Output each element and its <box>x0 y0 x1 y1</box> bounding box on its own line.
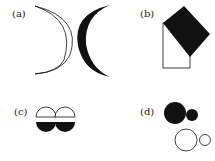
panel-d-small-outline-circle <box>200 135 211 146</box>
panel-a-crescent-outline <box>35 6 72 74</box>
figure-drawing <box>0 0 215 161</box>
panel-d-large-black-circle <box>164 102 186 124</box>
panel-d-small-black-circle <box>186 109 198 121</box>
panel-d-large-outline-circle <box>175 129 197 151</box>
panel-c-black-bowls <box>36 122 75 132</box>
panel-c-white-domes <box>36 107 75 117</box>
panel-a-black-crescent <box>77 5 110 77</box>
